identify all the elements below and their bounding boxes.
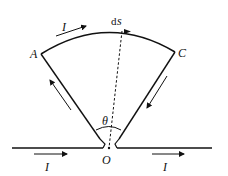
arc-AC [41, 32, 175, 54]
label-ds-s: s [117, 14, 122, 28]
current-arrow-top-icon [56, 26, 86, 36]
label-current-right: I [162, 160, 168, 174]
label-C: C [178, 46, 187, 60]
origin-point [108, 147, 110, 149]
current-arrow-left-radius-icon [50, 80, 71, 110]
junction-right [115, 139, 119, 148]
radius-OA [41, 54, 100, 139]
junction-left [100, 139, 105, 148]
dashed-radius [109, 31, 122, 148]
label-A: A [29, 47, 38, 61]
label-theta: θ [102, 114, 108, 128]
circuit-diagram: A C O θ d s I I I [0, 0, 228, 176]
label-current-top: I [61, 20, 67, 34]
theta-arc [96, 127, 121, 131]
label-current-left: I [44, 160, 50, 174]
radius-OC [119, 52, 175, 139]
label-O: O [102, 153, 111, 167]
